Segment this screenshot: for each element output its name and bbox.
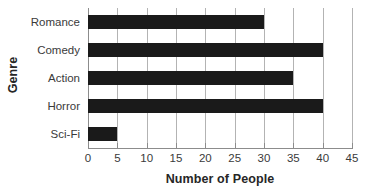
gridline-40 — [323, 8, 324, 148]
y-tick-label-sci-fi: Sci-Fi — [22, 128, 80, 140]
x-tick-label-10: 10 — [140, 152, 153, 164]
gridline-45 — [352, 8, 353, 148]
bar-horror — [88, 99, 323, 113]
x-tick-20 — [205, 143, 206, 148]
x-tick-label-45: 45 — [346, 152, 359, 164]
x-tick-label-5: 5 — [114, 152, 120, 164]
x-tick-label-40: 40 — [316, 152, 329, 164]
x-tick-35 — [293, 143, 294, 148]
plot-area — [88, 8, 352, 148]
bar-sci-fi — [88, 127, 117, 141]
bar-action — [88, 71, 293, 85]
bar-romance — [88, 15, 264, 29]
y-axis-tick-labels: RomanceComedyActionHorrorSci-Fi — [26, 8, 84, 148]
x-tick-45 — [352, 143, 353, 148]
y-tick-label-comedy: Comedy — [22, 44, 80, 56]
x-tick-40 — [323, 143, 324, 148]
y-tick-label-romance: Romance — [22, 16, 80, 28]
y-tick-label-horror: Horror — [22, 100, 80, 112]
x-tick-label-15: 15 — [170, 152, 183, 164]
x-tick-15 — [176, 143, 177, 148]
bar-comedy — [88, 43, 323, 57]
x-tick-0 — [88, 143, 89, 148]
x-tick-30 — [264, 143, 265, 148]
x-tick-label-0: 0 — [85, 152, 91, 164]
bar-chart: Genre RomanceComedyActionHorrorSci-Fi Nu… — [0, 0, 373, 196]
x-tick-label-35: 35 — [287, 152, 300, 164]
x-tick-label-20: 20 — [199, 152, 212, 164]
x-tick-25 — [235, 143, 236, 148]
x-tick-5 — [117, 143, 118, 148]
x-tick-label-30: 30 — [258, 152, 271, 164]
x-axis-line — [88, 148, 353, 149]
x-tick-label-25: 25 — [228, 152, 241, 164]
y-axis-title-label: Genre — [6, 57, 20, 94]
y-tick-label-action: Action — [22, 72, 80, 84]
x-tick-10 — [147, 143, 148, 148]
gridline-35 — [293, 8, 294, 148]
x-axis-title: Number of People — [88, 172, 352, 186]
